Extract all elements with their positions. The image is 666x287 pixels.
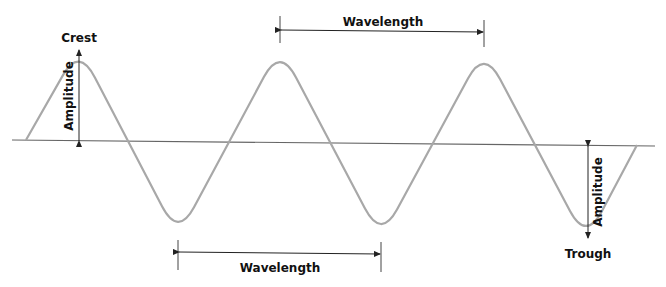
amplitude-label-left: Amplitude <box>62 61 76 131</box>
wavelength-label-bottom: Wavelength <box>240 261 321 275</box>
wavelength-arrow-bottom <box>179 252 380 254</box>
crest-label: Crest <box>61 31 97 45</box>
trough-label: Trough <box>565 247 612 261</box>
wavelength-arrow-top <box>281 30 483 32</box>
wave-diagram: Amplitude Crest Wavelength Wavelength Am… <box>0 0 666 287</box>
amplitude-label-right: Amplitude <box>591 157 605 227</box>
wave-line <box>26 62 637 226</box>
equilibrium-axis <box>12 140 655 146</box>
wavelength-label-top: Wavelength <box>343 15 424 29</box>
